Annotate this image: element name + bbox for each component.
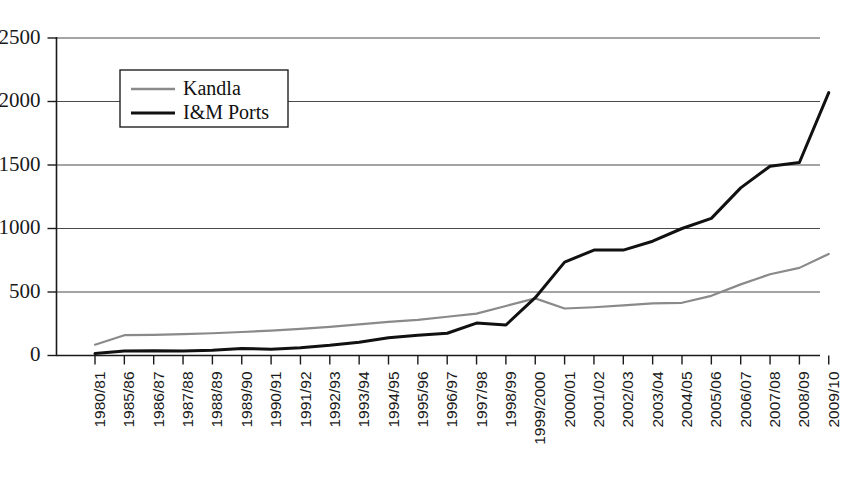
x-tick-label: 1987/88: [179, 372, 196, 428]
x-tick-label: 1993/94: [355, 371, 372, 427]
x-tick-label: 1996/97: [443, 372, 460, 428]
x-tick-label: 2009/10: [825, 371, 842, 427]
x-tick-label: 1999/2000: [531, 371, 548, 445]
x-tick-label: 2002/03: [619, 372, 636, 428]
x-tick-label: 1989/90: [238, 371, 255, 427]
x-tick-label: 2003/04: [649, 371, 666, 427]
x-tick-label: 1998/99: [502, 372, 519, 428]
x-tick-label: 2000/01: [561, 372, 578, 428]
legend-label-im-ports: I&M Ports: [183, 101, 269, 123]
y-tick-label: 2500: [0, 25, 41, 49]
x-tick-label: 1980/81: [91, 372, 108, 428]
x-tick-label: 2004/05: [678, 372, 695, 428]
y-tick-label: 1000: [0, 215, 41, 239]
x-tick-label: 2007/08: [766, 372, 783, 428]
y-axis-ticks-group: 05001000150020002500: [0, 25, 57, 367]
x-tick-label: 1985/86: [120, 372, 137, 428]
x-tick-label: 1988/89: [208, 372, 225, 428]
x-tick-label: 1995/96: [414, 372, 431, 428]
y-tick-label: 1500: [0, 152, 41, 176]
x-tick-label: 1991/92: [297, 372, 314, 428]
chart-legend: Kandla I&M Ports: [120, 70, 288, 127]
x-axis-ticks-group: 1980/811985/861986/871987/881988/891989/…: [91, 356, 842, 445]
x-tick-label: 2005/06: [707, 372, 724, 428]
series-layer: [95, 93, 829, 354]
legend-label-kandla: Kandla: [183, 77, 241, 99]
x-tick-label: 2008/09: [795, 372, 812, 428]
x-tick-label: 1997/98: [473, 372, 490, 428]
y-tick-label: 2000: [0, 88, 41, 112]
chart-canvas: 05001000150020002500 1980/811985/861986/…: [0, 0, 843, 497]
x-tick-label: 1990/91: [267, 372, 284, 428]
x-tick-label: 2006/07: [737, 372, 754, 428]
x-tick-label: 1992/93: [326, 372, 343, 428]
y-tick-label: 500: [9, 279, 41, 303]
series-line-kandla: [95, 254, 829, 345]
x-tick-label: 1994/95: [385, 372, 402, 428]
y-tick-label: 0: [30, 342, 41, 366]
x-tick-label: 1986/87: [150, 372, 167, 428]
x-tick-label: 2001/02: [590, 372, 607, 428]
line-chart: 05001000150020002500 1980/811985/861986/…: [0, 0, 843, 497]
